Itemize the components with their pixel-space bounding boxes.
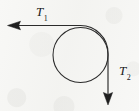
force-label-t2-symbol: T [119,63,126,78]
force-label-t1-symbol: T [36,4,43,19]
arrowhead-down-icon [103,93,112,106]
force-diagram-figure: T1 T2 [0,0,139,111]
cord-path [16,26,108,100]
force-diagram-canvas [0,0,139,111]
arrowhead-left-icon [8,21,21,30]
force-label-t2-subscript: 2 [127,73,131,82]
force-label-t1-subscript: 1 [44,14,48,23]
force-label-t1: T1 [36,5,47,22]
pulley-circle [53,28,108,83]
force-label-t2: T2 [119,64,130,81]
